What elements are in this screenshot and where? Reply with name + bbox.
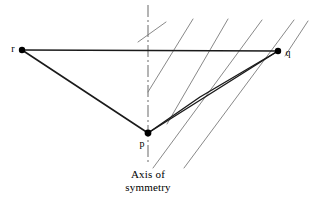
hatch-line-group [138, 19, 308, 168]
caption-line-2: symmetry [125, 181, 171, 194]
caption-line-1: Axis of [125, 168, 171, 181]
hatch-line [138, 22, 166, 42]
point-q-label: q [286, 47, 291, 58]
point-r-label: r [11, 43, 15, 54]
hatch-line [184, 20, 294, 168]
segment-r-p [22, 50, 148, 133]
segment-r-q [22, 50, 278, 51]
diagram-canvas: r q p Axis of symmetry [0, 0, 324, 207]
point-p-dot [145, 130, 152, 137]
hatch-line [153, 20, 262, 168]
point-q-dot [275, 48, 281, 54]
point-r-dot [19, 47, 25, 53]
point-p-label: p [140, 138, 145, 149]
